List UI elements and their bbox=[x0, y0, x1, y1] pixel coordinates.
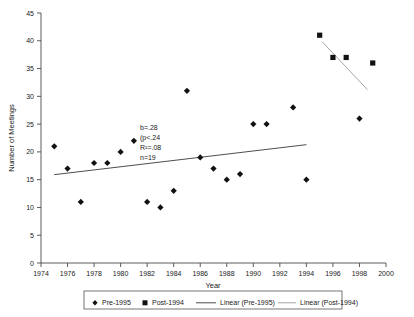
x-tick-label: 1976 bbox=[60, 270, 76, 277]
x-tick-label: 1982 bbox=[139, 270, 155, 277]
data-point-diamond bbox=[64, 165, 70, 171]
x-tick-label: 1994 bbox=[299, 270, 315, 277]
x-axis-title: Year bbox=[205, 281, 221, 290]
data-point-diamond bbox=[197, 154, 203, 160]
scatter-chart: 0 5 10 15 20 25 30 35 40 45 Number of Me… bbox=[0, 0, 414, 317]
x-axis-ticks bbox=[41, 263, 386, 267]
data-point-square bbox=[330, 55, 335, 60]
x-tick-label: 1988 bbox=[219, 270, 235, 277]
data-point-square bbox=[317, 33, 322, 38]
chart-legend: Pre-1995 Post-1994 Linear (Pre-1995) Lin… bbox=[84, 291, 358, 309]
trendline bbox=[54, 145, 306, 175]
x-tick-label: 1984 bbox=[166, 270, 182, 277]
data-point-diamond bbox=[210, 165, 216, 171]
y-axis-tick-labels: 0 5 10 15 20 25 30 35 40 45 bbox=[26, 10, 34, 267]
data-point-diamond bbox=[118, 149, 124, 155]
legend-item-pre-1995[interactable]: Pre-1995 bbox=[92, 299, 131, 306]
data-markers bbox=[51, 33, 375, 211]
annotation-line: n=19 bbox=[140, 154, 156, 161]
data-point-diamond bbox=[250, 121, 256, 127]
square-marker-icon bbox=[143, 300, 148, 305]
x-tick-label: 1974 bbox=[33, 270, 49, 277]
data-point-square bbox=[370, 60, 375, 65]
annotation-line: b=.28 bbox=[140, 124, 158, 131]
x-tick-label: 1980 bbox=[113, 270, 129, 277]
data-point-diamond bbox=[184, 88, 190, 94]
y-axis-ticks bbox=[37, 13, 41, 263]
y-tick-label: 10 bbox=[26, 204, 34, 211]
x-tick-label: 1986 bbox=[192, 270, 208, 277]
data-point-diamond bbox=[91, 160, 97, 166]
y-tick-label: 0 bbox=[30, 260, 34, 267]
data-point-diamond bbox=[356, 115, 362, 121]
legend-item-linear-post-1994[interactable]: Linear (Post-1994) bbox=[278, 299, 358, 307]
annotation-line: (p<.24 bbox=[140, 134, 160, 142]
trendline bbox=[322, 42, 367, 90]
data-point-diamond bbox=[131, 138, 137, 144]
legend-label: Pre-1995 bbox=[102, 299, 131, 306]
legend-item-linear-pre-1995[interactable]: Linear (Pre-1995) bbox=[196, 299, 275, 307]
x-tick-label: 1978 bbox=[86, 270, 102, 277]
y-axis-title: Number of Meetings bbox=[7, 104, 16, 172]
data-point-diamond bbox=[171, 188, 177, 194]
x-tick-label: 1998 bbox=[352, 270, 368, 277]
data-point-diamond bbox=[224, 177, 230, 183]
y-tick-label: 45 bbox=[26, 10, 34, 17]
x-tick-label: 1996 bbox=[325, 270, 341, 277]
annotation-line: R²=.08 bbox=[140, 144, 161, 151]
y-tick-label: 40 bbox=[26, 37, 34, 44]
data-point-diamond bbox=[263, 121, 269, 127]
statistics-annotation: b=.28 (p<.24 R²=.08 n=19 bbox=[140, 124, 161, 161]
y-tick-label: 35 bbox=[26, 65, 34, 72]
data-point-diamond bbox=[51, 143, 57, 149]
y-tick-label: 25 bbox=[26, 121, 34, 128]
data-point-diamond bbox=[237, 171, 243, 177]
data-point-diamond bbox=[303, 177, 309, 183]
trendlines bbox=[54, 42, 367, 175]
x-axis-tick-labels: 1974 1976 1978 1980 1982 1984 1986 1988 … bbox=[33, 270, 394, 277]
x-tick-label: 2000 bbox=[378, 270, 394, 277]
legend-label: Post-1994 bbox=[152, 299, 184, 306]
data-point-diamond bbox=[157, 204, 163, 210]
x-tick-label: 1992 bbox=[272, 270, 288, 277]
y-tick-label: 30 bbox=[26, 93, 34, 100]
data-point-diamond bbox=[290, 104, 296, 110]
diamond-marker-icon bbox=[92, 300, 97, 306]
y-tick-label: 5 bbox=[30, 232, 34, 239]
y-tick-label: 15 bbox=[26, 176, 34, 183]
data-point-diamond bbox=[78, 199, 84, 205]
legend-label: Linear (Pre-1995) bbox=[220, 299, 275, 307]
data-point-square bbox=[344, 55, 349, 60]
data-point-diamond bbox=[144, 199, 150, 205]
data-point-diamond bbox=[104, 160, 110, 166]
y-tick-label: 20 bbox=[26, 148, 34, 155]
legend-label: Linear (Post-1994) bbox=[300, 299, 358, 307]
x-tick-label: 1990 bbox=[246, 270, 262, 277]
legend-item-post-1994[interactable]: Post-1994 bbox=[143, 299, 185, 306]
